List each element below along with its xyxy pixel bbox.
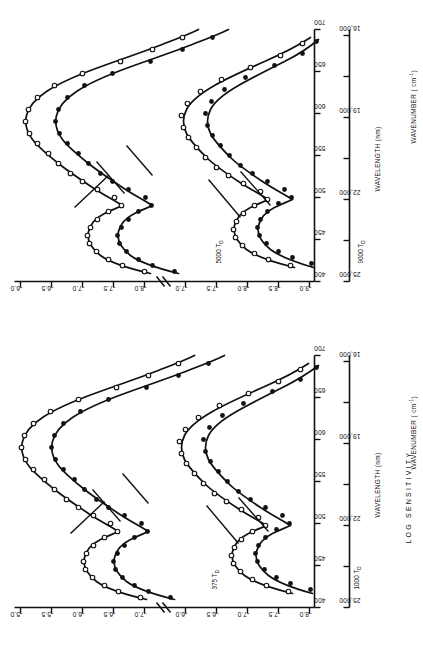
wavenumber-title-sup: -1 bbox=[408, 72, 413, 77]
wavenumber-tick-label: 22,000 bbox=[339, 188, 360, 195]
rotated-figure: -5.0 -5.5 -6.0 -6.5 -7.0 -6.0 -6.5 -7.0 … bbox=[0, 0, 423, 651]
wavenumber-axis bbox=[343, 29, 349, 281]
ytick-label: -6.0 bbox=[72, 610, 84, 617]
wavenumber-axis bbox=[343, 355, 349, 607]
ytick-label: -5.5 bbox=[41, 610, 53, 617]
chart-panel-lower: -5.0 -5.5 -6.0 -6.5 -7.0 -6.0 -6.5 -7.0 … bbox=[0, 326, 423, 651]
annotation-arrows bbox=[74, 145, 270, 217]
curve-9000-open bbox=[183, 37, 310, 267]
curve-label-9000-sub: D bbox=[360, 240, 365, 243]
xtick-label: 450 bbox=[313, 228, 325, 235]
xtick-label: 400 bbox=[313, 270, 325, 277]
curve-label-1000-text: 1000 T bbox=[352, 569, 359, 589]
xtick-label: 600 bbox=[313, 428, 325, 435]
wavenumber-title-text: WAVENUMBER ( cm bbox=[409, 77, 416, 143]
ytick-label: -8.5 bbox=[268, 284, 280, 291]
panel-upper-plot bbox=[14, 29, 349, 287]
xtick-label: 400 bbox=[313, 596, 325, 603]
ytick-label: -6.0 bbox=[10, 284, 22, 291]
curve-5000-open bbox=[25, 29, 198, 273]
ytick-label: -7.0 bbox=[134, 610, 146, 617]
curve-label-5000-text: 5000 T bbox=[214, 243, 221, 263]
ytick-label: -8.0 bbox=[299, 610, 311, 617]
curve-375-open bbox=[21, 355, 194, 599]
wavenumber-title-end: ) bbox=[409, 70, 416, 73]
ytick-label: -8.0 bbox=[237, 284, 249, 291]
ytick-label: -5.0 bbox=[10, 610, 22, 617]
curve-label-375-sub: D bbox=[214, 569, 219, 572]
points-375-filled bbox=[49, 361, 211, 600]
curve-label-5000-sub: D bbox=[218, 240, 223, 243]
wavenumber-tick-label: 16,000 bbox=[339, 24, 360, 31]
xtick-label: 650 bbox=[313, 386, 325, 393]
wavenumber-title-end: ) bbox=[409, 396, 416, 399]
points-375-open bbox=[19, 361, 181, 600]
panel-lower-plot bbox=[14, 355, 349, 613]
ytick-label: -9.0 bbox=[299, 284, 311, 291]
xtick-label: 600 bbox=[313, 102, 325, 109]
wavenumber-tick-label: 25,000 bbox=[339, 596, 360, 603]
ytick-label: -8.0 bbox=[134, 284, 146, 291]
x-axis-title-wavenumber: WAVENUMBER ( cm-1) bbox=[408, 70, 416, 143]
xtick-label: 450 bbox=[313, 554, 325, 561]
curve-1000-open bbox=[181, 363, 308, 593]
xtick-label: 550 bbox=[313, 144, 325, 151]
curve-label-375-text: 375 T bbox=[210, 573, 217, 589]
points-9000-open bbox=[179, 41, 305, 268]
ytick-label: -6.5 bbox=[41, 284, 53, 291]
points-5000-open bbox=[23, 35, 185, 274]
xtick-label: 500 bbox=[313, 512, 325, 519]
wavenumber-tick-label: 19,000 bbox=[339, 432, 360, 439]
points-9000-filled bbox=[203, 39, 319, 266]
curve-9000-filled bbox=[207, 39, 318, 267]
ytick-label: -7.5 bbox=[268, 610, 280, 617]
xtick-label: 700 bbox=[313, 18, 325, 25]
ytick-label: -7.0 bbox=[72, 284, 84, 291]
wavenumber-tick-label: 16,000 bbox=[339, 350, 360, 357]
x-axis-title-wavelength: WAVELENGTH (nm) bbox=[373, 452, 380, 517]
curve-label-375: 375 TD bbox=[210, 569, 219, 589]
curve-label-1000-sub: D bbox=[356, 566, 361, 569]
ytick-label: -7.5 bbox=[103, 284, 115, 291]
x-axis-title-wavelength: WAVELENGTH (nm) bbox=[373, 126, 380, 191]
wavenumber-tick-label: 25,000 bbox=[339, 270, 360, 277]
curve-label-5000: 5000 TD bbox=[214, 240, 223, 263]
wavenumber-tick-label: 19,000 bbox=[339, 106, 360, 113]
xtick-label: 700 bbox=[313, 344, 325, 351]
curve-5000-filled bbox=[55, 29, 228, 273]
wavenumber-tick-label: 22,000 bbox=[339, 514, 360, 521]
ytick-label: -7.0 bbox=[175, 284, 187, 291]
ytick-label: -7.0 bbox=[237, 610, 249, 617]
xtick-label: 650 bbox=[313, 60, 325, 67]
curve-label-1000: 1000 TD bbox=[352, 566, 361, 589]
points-1000-open bbox=[177, 367, 303, 594]
curve-label-9000: 9000 TD bbox=[356, 240, 365, 263]
xtick-label: 500 bbox=[313, 186, 325, 193]
curve-1000-filled bbox=[205, 365, 318, 593]
chart-panel-upper: -6.0 -6.5 -7.0 -7.5 -8.0 -7.0 -7.5 -8.0 … bbox=[0, 0, 423, 325]
curve-label-9000-text: 9000 T bbox=[356, 243, 363, 263]
figure-canvas: -5.0 -5.5 -6.0 -6.5 -7.0 -6.0 -6.5 -7.0 … bbox=[0, 0, 423, 651]
ytick-label: -6.0 bbox=[175, 610, 187, 617]
wavenumber-title-sup: -1 bbox=[408, 398, 413, 403]
ytick-label: -6.5 bbox=[103, 610, 115, 617]
xtick-label: 550 bbox=[313, 470, 325, 477]
ytick-label: -7.5 bbox=[206, 284, 218, 291]
ytick-label: -6.5 bbox=[206, 610, 218, 617]
y-axis-title: LOG SENSITIVITY bbox=[404, 450, 411, 543]
